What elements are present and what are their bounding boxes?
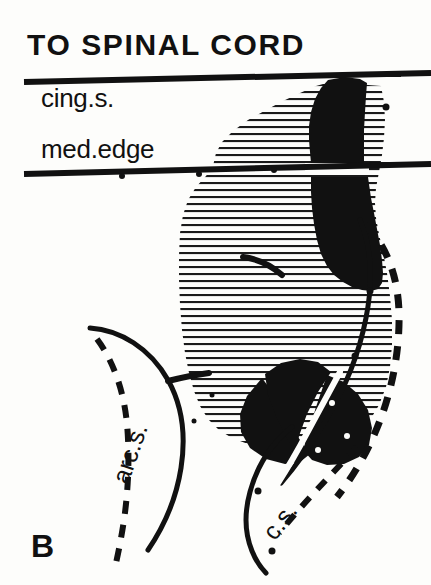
figure-panel-b: TO SPINAL CORD cing.s. med.edge arc.s. c… — [0, 0, 431, 585]
stipple-dot — [196, 171, 202, 177]
stipple-dot — [269, 548, 276, 555]
stipple-dot-inverse — [344, 433, 350, 439]
tick-mark-lower — [369, 162, 401, 167]
stipple-dot — [119, 173, 125, 179]
cingulate-sulcus-line — [24, 73, 431, 82]
label-medial-edge: med.edge — [41, 136, 154, 162]
stipple-dot-inverse — [329, 400, 335, 406]
panel-letter: B — [31, 530, 54, 562]
label-cingulate-sulcus: cing.s. — [41, 85, 114, 111]
stipple-dot — [367, 288, 374, 295]
stipple-dot — [352, 353, 359, 360]
stipple-dot — [271, 167, 277, 173]
stipple-dot — [192, 419, 197, 424]
stipple-dot-inverse — [315, 447, 321, 453]
tick-mark-upper — [371, 72, 401, 77]
stipple-dot — [255, 488, 262, 495]
stipple-dot — [383, 104, 390, 111]
page-title: TO SPINAL CORD — [27, 30, 305, 60]
stipple-dot — [210, 393, 215, 398]
